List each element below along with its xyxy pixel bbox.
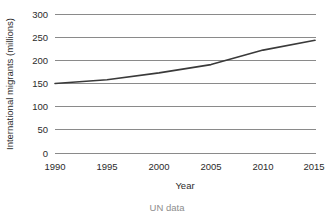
x-tick-label-1990: 1990: [44, 161, 65, 172]
x-tick-label-1995: 1995: [96, 161, 117, 172]
x-tick-label-2000: 2000: [148, 161, 169, 172]
x-axis-title: Year: [175, 180, 194, 191]
chart-background: [0, 0, 334, 223]
x-tick-label-2010: 2010: [252, 161, 273, 172]
line-chart: 300 250 200 150 100 50 0 1990 1995 2000 …: [0, 0, 334, 223]
y-tick-label-300: 300: [32, 9, 48, 20]
y-tick-label-100: 100: [32, 101, 48, 112]
y-tick-label-250: 250: [32, 32, 48, 43]
y-tick-label-150: 150: [32, 78, 48, 89]
x-tick-label-2015: 2015: [303, 161, 324, 172]
chart-figure: 300 250 200 150 100 50 0 1990 1995 2000 …: [0, 0, 334, 223]
chart-caption: UN data: [150, 202, 186, 213]
y-tick-label-200: 200: [32, 55, 48, 66]
y-tick-label-50: 50: [37, 124, 48, 135]
x-tick-label-2005: 2005: [200, 161, 221, 172]
y-axis-title: International migrants (millions): [4, 18, 15, 150]
y-tick-label-0: 0: [43, 148, 48, 159]
